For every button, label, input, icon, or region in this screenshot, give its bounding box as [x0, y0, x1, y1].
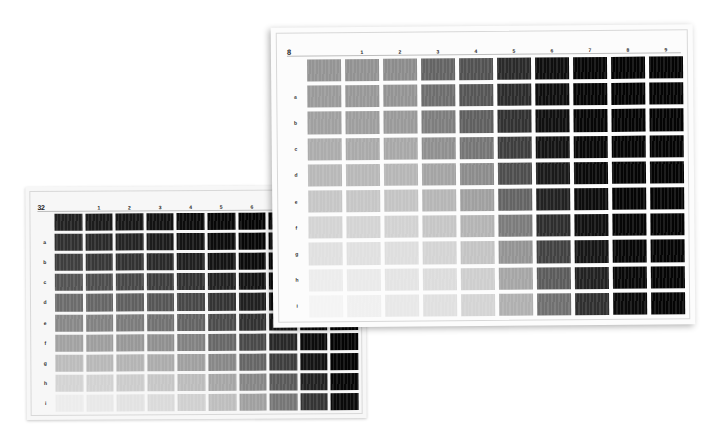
gray-patch[interactable]	[345, 59, 379, 81]
gray-patch[interactable]	[649, 56, 683, 78]
gray-patch[interactable]	[116, 274, 144, 291]
gray-patch[interactable]	[86, 334, 114, 351]
gray-patch[interactable]	[55, 254, 83, 271]
gray-patch[interactable]	[498, 162, 532, 184]
gray-patch[interactable]	[575, 293, 609, 315]
gray-patch[interactable]	[208, 273, 236, 290]
gray-patch[interactable]	[307, 59, 341, 81]
gray-patch[interactable]	[650, 187, 684, 209]
gray-patch[interactable]	[383, 85, 417, 107]
gray-patch[interactable]	[611, 57, 645, 79]
gray-patch[interactable]	[460, 136, 494, 158]
gray-patch[interactable]	[499, 267, 533, 289]
gray-patch[interactable]	[239, 313, 267, 330]
gray-patch[interactable]	[331, 393, 359, 410]
gray-patch[interactable]	[147, 334, 175, 351]
gray-patch[interactable]	[86, 394, 114, 411]
gray-patch[interactable]	[238, 213, 266, 230]
gray-patch[interactable]	[56, 395, 84, 412]
gray-patch[interactable]	[300, 333, 328, 350]
gray-patch[interactable]	[612, 188, 646, 210]
gray-patch[interactable]	[384, 137, 418, 159]
gray-patch[interactable]	[147, 294, 175, 311]
gray-patch[interactable]	[651, 240, 685, 262]
gray-patch[interactable]	[177, 313, 205, 330]
gray-patch[interactable]	[536, 162, 570, 184]
gray-patch[interactable]	[384, 163, 418, 185]
gray-patch[interactable]	[461, 241, 495, 263]
gray-patch[interactable]	[116, 314, 144, 331]
gray-patch[interactable]	[207, 213, 235, 230]
gray-patch[interactable]	[116, 213, 144, 230]
gray-patch[interactable]	[269, 333, 297, 350]
gray-patch[interactable]	[270, 373, 298, 390]
gray-patch[interactable]	[422, 163, 456, 185]
gray-patch[interactable]	[345, 111, 379, 133]
gray-patch[interactable]	[650, 213, 684, 235]
gray-patch[interactable]	[331, 333, 359, 350]
gray-patch[interactable]	[346, 216, 380, 238]
gray-patch[interactable]	[537, 267, 571, 289]
gray-patch[interactable]	[459, 110, 493, 132]
gray-patch[interactable]	[461, 267, 495, 289]
gray-patch[interactable]	[177, 213, 205, 230]
gray-patch[interactable]	[178, 334, 206, 351]
gray-patch[interactable]	[208, 293, 236, 310]
gray-patch[interactable]	[116, 294, 144, 311]
gray-patch[interactable]	[309, 295, 343, 317]
gray-patch[interactable]	[497, 84, 531, 106]
gray-patch[interactable]	[209, 394, 237, 411]
gray-patch[interactable]	[649, 82, 683, 104]
gray-patch[interactable]	[146, 233, 174, 250]
gray-patch[interactable]	[55, 354, 83, 371]
gray-patch[interactable]	[55, 294, 83, 311]
gray-patch[interactable]	[239, 373, 267, 390]
gray-patch[interactable]	[497, 58, 531, 80]
gray-patch[interactable]	[116, 233, 144, 250]
gray-patch[interactable]	[238, 273, 266, 290]
gray-patch[interactable]	[498, 136, 532, 158]
gray-patch[interactable]	[346, 190, 380, 212]
gray-patch[interactable]	[459, 84, 493, 106]
gray-patch[interactable]	[178, 374, 206, 391]
gray-patch[interactable]	[308, 138, 342, 160]
gray-patch[interactable]	[499, 293, 533, 315]
gray-patch[interactable]	[55, 234, 83, 251]
gray-patch[interactable]	[537, 241, 571, 263]
gray-patch[interactable]	[536, 214, 570, 236]
gray-patch[interactable]	[573, 109, 607, 131]
gray-patch[interactable]	[460, 163, 494, 185]
gray-patch[interactable]	[308, 190, 342, 212]
gray-patch[interactable]	[573, 83, 607, 105]
gray-patch[interactable]	[117, 394, 145, 411]
gray-patch[interactable]	[574, 162, 608, 184]
gray-patch[interactable]	[649, 109, 683, 131]
gray-patch[interactable]	[55, 374, 83, 391]
gray-patch[interactable]	[270, 393, 298, 410]
gray-patch[interactable]	[85, 254, 113, 271]
gray-patch[interactable]	[208, 313, 236, 330]
gray-patch[interactable]	[384, 190, 418, 212]
gray-patch[interactable]	[116, 334, 144, 351]
gray-patch[interactable]	[422, 137, 456, 159]
gray-patch[interactable]	[146, 253, 174, 270]
gray-patch[interactable]	[117, 354, 145, 371]
gray-patch[interactable]	[423, 294, 457, 316]
gray-patch[interactable]	[574, 214, 608, 236]
gray-patch[interactable]	[55, 334, 83, 351]
gray-patch[interactable]	[651, 266, 685, 288]
gray-patch[interactable]	[86, 354, 114, 371]
gray-patch[interactable]	[147, 314, 175, 331]
gray-patch[interactable]	[460, 215, 494, 237]
gray-patch[interactable]	[573, 57, 607, 79]
gray-patch[interactable]	[85, 274, 113, 291]
gray-patch[interactable]	[385, 268, 419, 290]
gray-patch[interactable]	[347, 295, 381, 317]
gray-patch[interactable]	[146, 213, 174, 230]
gray-patch[interactable]	[422, 189, 456, 211]
gray-patch[interactable]	[239, 353, 267, 370]
gray-patch[interactable]	[178, 354, 206, 371]
gray-patch[interactable]	[208, 333, 236, 350]
gray-patch[interactable]	[309, 269, 343, 291]
gray-patch[interactable]	[54, 214, 82, 231]
